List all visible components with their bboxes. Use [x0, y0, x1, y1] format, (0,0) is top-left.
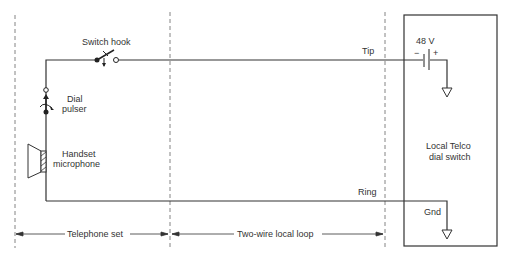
- telco-label-2: dial switch: [429, 152, 471, 162]
- telephone-loop-diagram: Switch hook Dial pulser Handset micropho…: [0, 0, 509, 261]
- battery-plus-label: +: [433, 48, 438, 58]
- dial-pulser-label-1: Dial: [67, 94, 83, 104]
- handset-label-2: microphone: [53, 159, 100, 169]
- battery-ground-wire: [430, 60, 447, 88]
- ring-label: Ring: [358, 187, 377, 197]
- telco-label-1: Local Telco: [426, 141, 471, 151]
- region-boundaries: [15, 12, 385, 248]
- dial-pulser-icon: [40, 88, 54, 115]
- gnd-label: Gnd: [424, 207, 441, 217]
- switch-hook-label: Switch hook: [82, 37, 131, 47]
- switch-hook-icon: [95, 50, 119, 67]
- battery-icon: [424, 49, 429, 70]
- ground-icon-ring: [442, 230, 452, 239]
- dial-pulser-label-2: pulser: [62, 104, 87, 114]
- wiring: [46, 60, 447, 230]
- region-telephone-set-label: Telephone set: [67, 229, 124, 239]
- ring-wire: [46, 201, 447, 230]
- phone-left-wire: [46, 60, 96, 201]
- battery-minus-label: −: [414, 48, 419, 58]
- handset-microphone-icon: [28, 144, 46, 178]
- region-local-loop-label: Two-wire local loop: [237, 229, 314, 239]
- ground-icon-battery: [442, 88, 452, 97]
- handset-label-1: Handset: [62, 149, 96, 159]
- tip-label: Tip: [362, 46, 374, 56]
- battery-voltage-label: 48 V: [416, 36, 435, 46]
